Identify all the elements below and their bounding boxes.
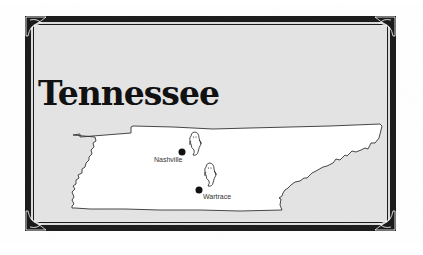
city-label-nashville: Nashville <box>154 156 182 163</box>
map-artwork <box>0 0 423 255</box>
city-label-wartrace: Wartrace <box>203 193 231 200</box>
wartrace-dot[interactable] <box>196 187 203 194</box>
nashville-dot[interactable] <box>179 149 186 156</box>
map-title: Tennessee <box>38 77 219 110</box>
